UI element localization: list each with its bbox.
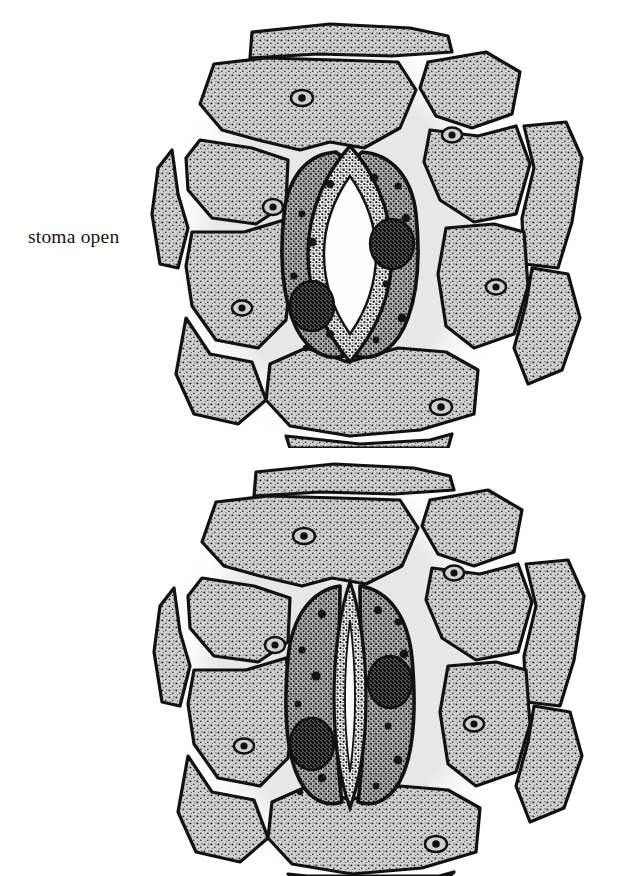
epidermal-cell [254, 464, 454, 496]
epidermal-nucleus [263, 199, 283, 215]
stoma-figure: stoma open [0, 0, 619, 876]
epidermal-cell [266, 348, 478, 436]
stoma-open-label: stoma open [28, 226, 119, 248]
panel-stoma-closed: stoma closed [0, 458, 619, 876]
guard-cell-nucleus [368, 656, 412, 708]
epidermal-nucleus [291, 90, 313, 106]
epidermal-cell [152, 150, 188, 268]
guard-cell-nucleus [370, 219, 414, 269]
epidermal-nucleus [444, 566, 464, 581]
epidermal-cell [422, 490, 522, 566]
epidermal-nucleus [430, 399, 452, 415]
epidermal-nucleus [232, 301, 252, 316]
epidermal-nucleus [234, 739, 254, 754]
panel-stoma-open: stoma open [0, 18, 619, 448]
epidermal-cell [438, 224, 528, 348]
epidermal-nucleus [464, 717, 484, 732]
epidermal-cell [522, 122, 582, 268]
stoma-closed-diagram [0, 458, 619, 876]
guard-cell-nucleus [290, 281, 334, 331]
epidermal-nucleus [265, 637, 285, 653]
epidermal-cell [524, 560, 584, 706]
epidermal-nucleus [486, 280, 506, 295]
epidermal-nucleus [293, 528, 315, 544]
guard-cell-nucleus [290, 718, 334, 770]
epidermal-nucleus [425, 836, 447, 852]
epidermal-cell [420, 52, 520, 128]
epidermal-cell [250, 24, 452, 58]
epidermal-cell [154, 588, 190, 706]
epidermal-nucleus [442, 128, 462, 143]
